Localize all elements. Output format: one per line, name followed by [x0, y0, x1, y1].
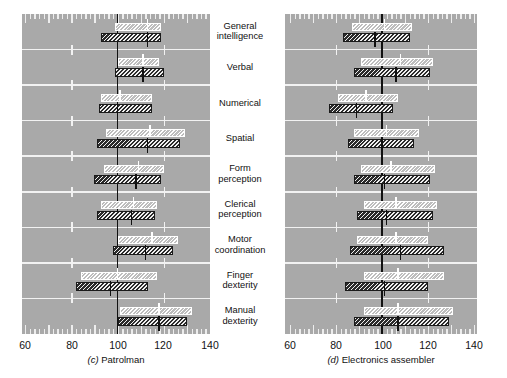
- range-bar-dark: [97, 139, 180, 148]
- caption-patrolman: (c) Patrolman: [22, 354, 210, 365]
- median-tick-light: [119, 90, 121, 102]
- axis-tick-top: [155, 14, 156, 19]
- axis-tick-top: [442, 14, 443, 19]
- axis-tick-bottom: [108, 329, 109, 334]
- median-tick-light: [149, 125, 151, 137]
- axis-tick-top: [85, 14, 86, 19]
- range-bar-dark: [345, 282, 428, 291]
- axis-minor-tick: [164, 151, 165, 161]
- axis-tick-bottom: [465, 329, 466, 334]
- range-bar-dark: [354, 175, 430, 184]
- axis-tick-bottom: [327, 329, 328, 334]
- axis-tick-top: [141, 14, 142, 23]
- axis-tick-top: [25, 14, 26, 23]
- axis-tick-top: [313, 14, 314, 23]
- range-bar-dark: [94, 175, 161, 184]
- axis-tick-bottom: [345, 329, 346, 334]
- axis-tick-top: [400, 14, 401, 19]
- axis-minor-tick: [428, 258, 429, 268]
- axis-tick-top: [433, 14, 434, 19]
- median-tick-light: [395, 232, 397, 244]
- axis-tick-top: [377, 14, 378, 19]
- median-tick-light: [384, 19, 386, 31]
- axis-tick-label: 60: [284, 338, 296, 352]
- axis-tick-top: [322, 14, 323, 19]
- axis-tick-bottom: [182, 329, 183, 334]
- axis-tick-bottom: [67, 329, 68, 334]
- x-axis-electronics-assembler: 6080100120140: [285, 338, 477, 352]
- axis-tick-bottom: [30, 329, 31, 334]
- axis-tick-top: [168, 14, 169, 19]
- median-tick-dark: [147, 32, 149, 47]
- caption-text: Patrolman: [101, 354, 144, 365]
- axis-tick-top: [373, 14, 374, 19]
- range-bar-dark: [97, 211, 155, 220]
- axis-tick-top: [290, 14, 291, 23]
- plot-area-patrolman: [22, 14, 210, 334]
- axis-tick-top: [108, 14, 109, 19]
- axis-tick-label: 60: [19, 338, 31, 352]
- axis-tick-bottom: [433, 329, 434, 334]
- median-tick-light: [147, 19, 149, 31]
- axis-tick-bottom: [414, 329, 415, 334]
- axis-tick-bottom: [336, 325, 337, 334]
- axis-tick-top: [295, 14, 296, 19]
- axis-tick-top: [104, 14, 105, 19]
- axis-minor-tick: [164, 187, 165, 197]
- axis-tick-top: [456, 14, 457, 19]
- axis-tick-top: [391, 14, 392, 19]
- axis-tick-top: [368, 14, 369, 19]
- axis-tick-label: 80: [330, 338, 342, 352]
- axis-minor-tick: [336, 293, 337, 303]
- axis-tick-top: [465, 14, 466, 19]
- axis-tick-top: [127, 14, 128, 19]
- axis-minor-tick: [164, 222, 165, 232]
- axis-tick-bottom: [187, 325, 188, 334]
- range-bar-dark: [354, 317, 448, 326]
- axis-tick-bottom: [39, 329, 40, 334]
- axis-tick-top: [387, 14, 388, 19]
- axis-tick-top: [62, 14, 63, 19]
- axis-tick-bottom: [290, 325, 291, 334]
- axis-tick-top: [327, 14, 328, 19]
- axis-minor-tick: [336, 116, 337, 126]
- median-tick-dark: [384, 281, 386, 296]
- range-bar-light: [106, 129, 185, 137]
- axis-tick-bottom: [127, 329, 128, 334]
- caption-letter: (c): [87, 354, 98, 365]
- axis-tick-top: [164, 14, 165, 23]
- range-bar-light: [101, 94, 152, 102]
- category-label-line: Form: [229, 163, 251, 173]
- axis-tick-bottom: [122, 329, 123, 334]
- axis-tick-top: [150, 14, 151, 19]
- axis-minor-tick: [336, 222, 337, 232]
- range-bar-light: [101, 201, 157, 209]
- axis-tick-top: [53, 14, 54, 19]
- range-bar-light: [115, 23, 161, 31]
- category-label-line: intelligence: [217, 32, 264, 42]
- range-bar-light: [104, 165, 164, 173]
- axis-tick-top: [350, 14, 351, 19]
- axis-tick-top: [299, 14, 300, 19]
- axis-minor-tick: [164, 293, 165, 303]
- axis-tick-top: [201, 14, 202, 19]
- axis-tick-bottom: [145, 329, 146, 334]
- range-bar-light: [364, 201, 438, 209]
- axis-minor-tick: [164, 45, 165, 55]
- axis-tick-top: [396, 14, 397, 19]
- range-bar-dark: [343, 33, 410, 42]
- range-bar-dark: [329, 104, 393, 113]
- axis-tick-label: 140: [465, 338, 483, 352]
- axis-tick-bottom: [391, 329, 392, 334]
- axis-tick-top: [437, 14, 438, 19]
- median-tick-light: [142, 54, 144, 66]
- range-bar-light: [364, 307, 454, 315]
- range-bar-light: [338, 94, 398, 102]
- axis-tick-bottom: [141, 325, 142, 334]
- axis-tick-top: [178, 14, 179, 19]
- axis-minor-tick: [71, 222, 72, 232]
- range-bar-light: [118, 58, 160, 66]
- axis-tick-top: [364, 14, 365, 19]
- range-bar-dark: [76, 282, 148, 291]
- axis-tick-top: [308, 14, 309, 19]
